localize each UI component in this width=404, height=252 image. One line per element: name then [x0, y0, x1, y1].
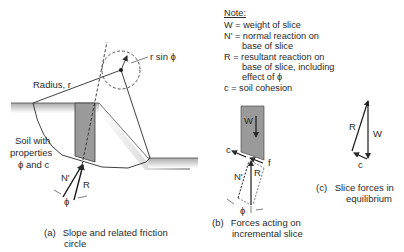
r-sin-phi-leader	[131, 57, 148, 63]
note-line: W = weight of slice	[224, 20, 334, 30]
note-line: base of slice	[224, 41, 334, 51]
caption-c-line2: equilibrium	[316, 193, 394, 204]
r-label: R	[83, 179, 90, 190]
soil-label-line3: ϕ and c	[18, 159, 49, 170]
note-line: base of slice, including	[224, 62, 334, 72]
w-label-c: W	[373, 128, 382, 139]
ground-surface-toe	[148, 158, 198, 168]
caption-c-line1: Slice forces in	[335, 182, 394, 193]
caption-a-line2: circle	[44, 238, 168, 249]
r-label-c: R	[349, 121, 356, 132]
phi-tick-right	[78, 196, 87, 198]
slice	[75, 103, 95, 162]
r-label-b: R	[254, 167, 261, 178]
phi-tick-left	[54, 190, 61, 194]
note-legend: Note: W = weight of slice N' = normal re…	[224, 8, 334, 93]
phi-tick-b-right	[256, 209, 263, 210]
n-prime-label-b: N'	[234, 171, 243, 182]
soil-label-line1: Soil with	[15, 135, 50, 146]
slope-stability-diagram: Radius, r r sin ϕ Soil with properties ϕ…	[0, 0, 404, 252]
note-line: effect of ϕ	[224, 72, 334, 82]
note-line: R = resultant reaction on	[224, 52, 334, 62]
caption-b-line2: incremental slice	[212, 228, 303, 239]
panel-a-slope	[11, 42, 198, 200]
component-dashed-1	[238, 198, 251, 205]
c-label-c: c	[358, 159, 363, 170]
note-header: Note:	[224, 8, 334, 18]
phi-label: ϕ	[64, 196, 69, 207]
c-label-b: c	[226, 144, 231, 155]
caption-b: (b) Forces acting on incremental slice	[212, 217, 303, 239]
caption-a: (a) Slope and related friction circle	[44, 227, 168, 249]
n-prime-label: N'	[61, 172, 70, 183]
note-line: c = soil cohesion	[224, 83, 334, 93]
note-line: N' = normal reaction on	[224, 31, 334, 41]
caption-a-line1: Slope and related friction	[63, 227, 168, 238]
r-sin-phi-arrow	[121, 56, 127, 70]
f-label-b: f	[268, 157, 271, 168]
phi-tick-b-left	[227, 199, 234, 204]
caption-b-label: (b)	[212, 217, 228, 228]
radius-label: Radius, r	[33, 79, 71, 90]
r-sin-phi-label: r sin ϕ	[150, 51, 176, 62]
soil-label-line2: properties	[10, 147, 52, 158]
caption-c-label: (c)	[316, 182, 332, 193]
phi-label-b: ϕ	[240, 205, 245, 216]
caption-b-line1: Forces acting on	[231, 217, 301, 228]
caption-a-label: (a)	[44, 227, 60, 238]
caption-c: (c) Slice forces in equilibrium	[316, 182, 394, 204]
w-label-b: W	[244, 115, 253, 126]
